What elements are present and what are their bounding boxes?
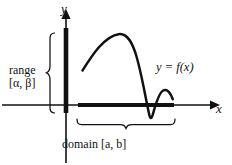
range-label-line1: range (9, 63, 36, 77)
domain-label: domain [a, b] (62, 138, 126, 151)
y-axis-label: y (61, 2, 67, 17)
range-label-line2: [α, β] (9, 77, 36, 90)
range-brace (47, 33, 55, 113)
range-label: range [α, β] (9, 64, 36, 91)
curve-equation-label: y = f(x) (156, 60, 194, 74)
function-graph-figure: y x y = f(x) range [α, β] domain [a, b] (0, 0, 232, 165)
x-axis-label: x (216, 102, 222, 117)
domain-brace (77, 119, 175, 129)
